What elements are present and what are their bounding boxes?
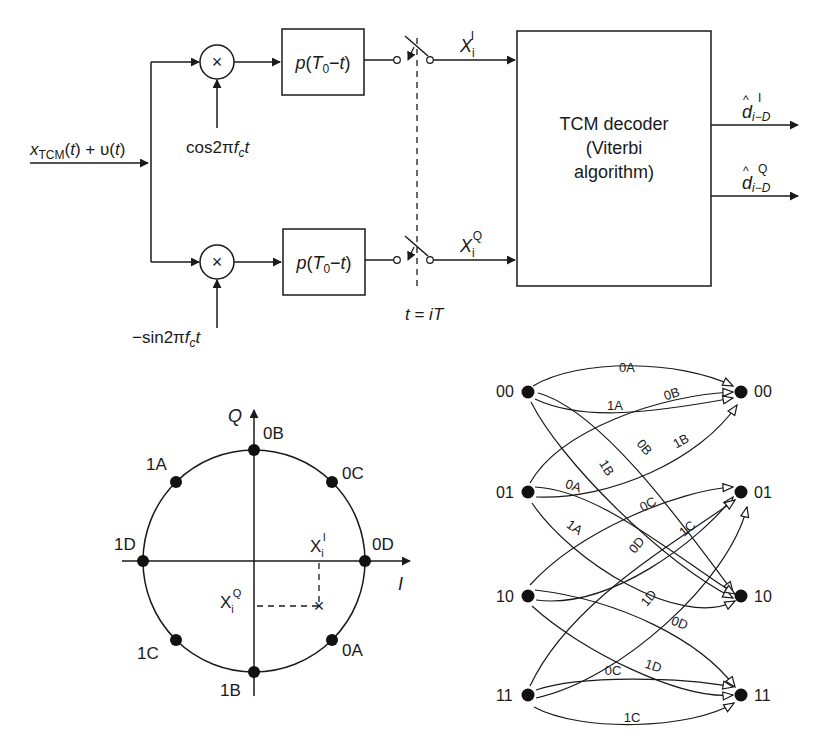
edge-label-0B-diag: 0B	[634, 436, 656, 458]
edge-10-11-0D	[535, 590, 735, 687]
decoder-label-line3: algorithm)	[574, 162, 654, 182]
switch-contact	[427, 257, 434, 264]
upper-switch-arrow	[408, 47, 414, 60]
edge-label-1D-mid: 1D	[637, 587, 659, 609]
point-0c	[326, 476, 338, 488]
label-0d: 0D	[372, 535, 394, 554]
edge-01-00-0B	[530, 392, 733, 483]
svg-text:^: ^	[743, 93, 749, 107]
received-i-label: XiI	[310, 531, 326, 559]
edge-label-0D-low: 0D	[669, 613, 690, 633]
edge-label-0D-mid: 0D	[625, 534, 647, 556]
right-node-01	[735, 486, 748, 499]
lower-switch-arrow	[408, 247, 414, 260]
svg-text:I: I	[758, 91, 761, 105]
sampling-time-label: t = iT	[405, 305, 445, 324]
point-1b	[248, 666, 260, 678]
left-node-01	[522, 486, 535, 499]
point-1d	[137, 555, 149, 567]
receiver-block-diagram: xTCM(t) + υ(t) × cos2πfct × −sin2πfct p(…	[29, 29, 798, 350]
point-1c	[170, 634, 182, 646]
tcm-decoder-block	[517, 31, 711, 286]
right-state-00: 00	[754, 383, 772, 400]
edge-label-1A-mid: 1A	[564, 517, 586, 539]
label-1c: 1C	[137, 644, 159, 663]
switch-contact	[427, 57, 434, 64]
svg-text:i−D: i−D	[752, 110, 771, 124]
edge-00-10-1B	[531, 402, 733, 598]
edge-label-1B-diag: 1B	[596, 457, 617, 478]
received-q-label: XiQ	[220, 587, 242, 615]
received-projection-lines	[254, 563, 319, 606]
svg-text:i−D: i−D	[752, 181, 771, 195]
edge-label-1A-top: 1A	[607, 398, 623, 413]
right-state-10: 10	[754, 588, 772, 605]
point-0a	[326, 634, 338, 646]
label-1d: 1D	[114, 535, 136, 554]
switch-contact	[394, 57, 401, 64]
point-1a	[170, 476, 182, 488]
right-node-00	[735, 386, 748, 399]
left-node-11	[522, 689, 535, 702]
decoder-label-line1: TCM decoder	[559, 114, 668, 134]
right-state-11: 11	[754, 687, 771, 704]
edge-label-0A-top: 0A	[619, 360, 635, 375]
svg-text:^: ^	[743, 164, 749, 178]
label-1a: 1A	[146, 455, 167, 474]
point-0b	[248, 444, 260, 456]
left-state-01: 01	[496, 484, 514, 501]
right-node-10	[735, 590, 748, 603]
multiply-icon: ×	[212, 252, 223, 272]
upper-carrier-label: cos2πfct	[186, 138, 250, 160]
left-node-10	[522, 590, 535, 603]
label-0c: 0C	[342, 464, 364, 483]
trellis-diagram: 00 01 10 11 00 01 10 11	[496, 360, 772, 725]
edge-label-0C-low: 0C	[605, 663, 622, 678]
lower-sample-label: XiQ	[459, 229, 482, 260]
label-1b: 1B	[220, 681, 241, 700]
right-state-01: 01	[754, 484, 772, 501]
lower-carrier-label: −sin2πfct	[132, 328, 202, 350]
switch-contact	[394, 257, 401, 264]
output-i-label: d ^ i−D I	[742, 91, 771, 124]
label-0a: 0A	[342, 641, 363, 660]
output-q-label: d ^ i−D Q	[742, 162, 771, 195]
left-state-11: 11	[496, 687, 513, 704]
svg-text:Q: Q	[758, 162, 767, 176]
left-node-00	[522, 386, 535, 399]
input-signal-label: xTCM(t) + υ(t)	[29, 140, 125, 162]
edge-label-1C-low: 1C	[624, 710, 641, 725]
upper-sample-label: XiI	[459, 29, 475, 60]
8psk-constellation: Q I 0D 0C 0B 1A 1D 1C 1B 0A × XiI XiQ	[114, 406, 410, 700]
edge-label-0B-top: 0B	[662, 384, 682, 403]
decoder-label-line2: (Viterbi	[586, 138, 643, 158]
edge-00-10-0B	[538, 393, 733, 592]
edge-label-0C-mid: 0C	[637, 494, 659, 515]
multiply-icon: ×	[212, 52, 223, 72]
i-axis-label: I	[398, 574, 403, 594]
label-0b: 0B	[263, 424, 284, 443]
q-axis-label: Q	[228, 406, 242, 426]
tcm-receiver-diagram: xTCM(t) + υ(t) × cos2πfct × −sin2πfct p(…	[0, 0, 819, 751]
edge-label-1D-low: 1D	[643, 656, 663, 675]
right-node-11	[735, 689, 748, 702]
edge-label-1B-top: 1B	[670, 431, 691, 452]
left-state-00: 00	[496, 383, 514, 400]
left-state-10: 10	[496, 588, 514, 605]
received-sample-marker: ×	[314, 596, 325, 616]
point-0d	[359, 555, 371, 567]
